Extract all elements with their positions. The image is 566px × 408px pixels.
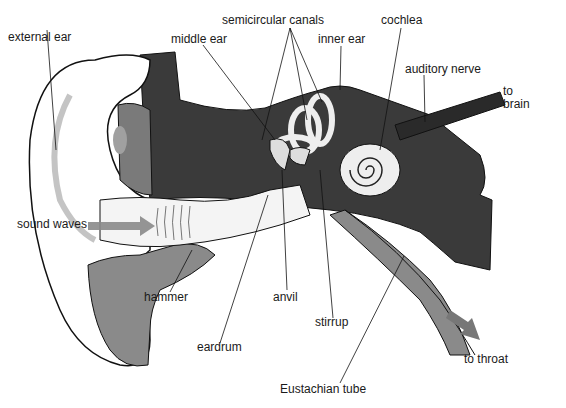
label-external-ear: external ear [8, 31, 71, 44]
label-to-brain-line2: brain [503, 98, 530, 111]
label-eustachian-tube: Eustachian tube [280, 383, 366, 396]
label-cochlea: cochlea [381, 14, 422, 27]
label-sound-waves: sound waves [17, 218, 87, 231]
label-middle-ear: middle ear [171, 33, 227, 46]
label-to-throat: to throat [464, 353, 508, 366]
label-hammer: hammer [144, 291, 188, 304]
label-auditory-nerve: auditory nerve [405, 63, 481, 76]
label-eardrum: eardrum [197, 341, 242, 354]
label-inner-ear: inner ear [318, 33, 365, 46]
label-anvil: anvil [273, 291, 298, 304]
label-stirrup: stirrup [315, 316, 348, 329]
cochlea-shape [340, 144, 400, 196]
ear-diagram [0, 0, 566, 408]
label-semicircular-canals: semicircular canals [222, 14, 324, 27]
